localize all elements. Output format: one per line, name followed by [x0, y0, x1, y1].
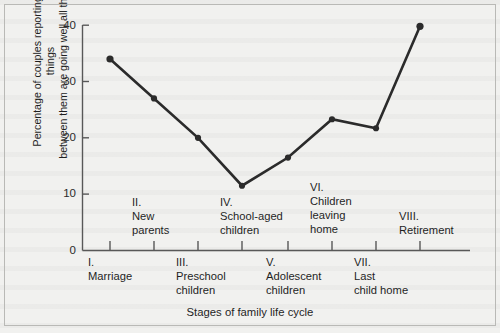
data-point-6	[329, 116, 335, 122]
data-point-1	[106, 55, 113, 62]
category-label-stage-4: IV. School-aged children	[220, 196, 306, 238]
category-label-stage-2: II. New parents	[132, 196, 192, 238]
data-point-8	[416, 23, 423, 30]
series-markers-group	[106, 23, 423, 189]
data-point-3	[195, 135, 201, 141]
category-label-stage-6: VI. Children leaving home	[310, 181, 374, 237]
series-line-path	[110, 26, 420, 185]
category-label-stage-8: VIII. Retirement	[399, 210, 481, 238]
category-label-stage-5: V. Adolescent children	[266, 256, 344, 298]
data-point-2	[151, 95, 157, 101]
category-label-stage-7: VII. Last child home	[354, 256, 434, 298]
data-point-5	[285, 154, 291, 160]
data-point-7	[373, 125, 379, 131]
category-label-stage-3: III. Preschool children	[176, 256, 248, 298]
data-point-4	[239, 183, 245, 189]
x-axis-title: Stages of family life cycle	[0, 306, 500, 318]
category-label-stage-1: I. Marriage	[88, 256, 150, 284]
figure-container: Percentage of couples reporting that thi…	[0, 0, 500, 333]
